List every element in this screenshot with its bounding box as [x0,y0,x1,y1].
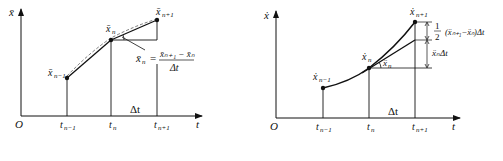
left-point-n [109,38,113,42]
left-tick-label-tn-1: t [60,119,63,130]
left-y-axis-label: x̄ [8,6,14,18]
left-point-n+1 [155,18,159,22]
right-angle-sub: n [388,62,392,70]
right-point-sub-n+1: n+1 [416,11,428,19]
right-tick-label-tn-1: t [316,121,319,132]
right-diagram: ẋ t O ẋ n−1 ẋ n ẋ n+1 ẍ n 1 2 (ẍₙ₊₁−ẍₙ)Δ… [263,6,485,134]
left-origin-label: O [15,118,23,130]
left-tick-sub-tn+1: n+1 [158,124,170,132]
left-point-label-n-1: x̄ [47,67,53,78]
left-tick-label-tn: t [109,119,112,130]
right-upper-frac-num: 1 [435,21,440,31]
left-x-axis-label: t [196,118,200,130]
right-point-sub-n-1: n−1 [319,76,331,84]
left-diagram: x̄ t O x̄ n−1 x̄ n x̄ n+1 x̄ n = x̄ₙ₊₁ −… [8,6,202,132]
right-point-n [367,66,371,70]
left-formula-equals: = [150,52,156,64]
left-tick-label-tn+1: t [154,119,157,130]
left-point-label-n+1: x̄ [155,6,161,17]
right-upper-frac-den: 2 [435,32,440,42]
left-formula-denominator: Δt [169,62,179,73]
right-lower-expr: ẍₙΔt [431,48,448,58]
left-pointer-line [122,37,145,50]
left-formula-lhs-sub: n [142,58,146,66]
right-tick-label-tn: t [367,121,370,132]
right-y-axis-label: ẋ [263,9,269,21]
diagram-canvas: x̄ t O x̄ n−1 x̄ n x̄ n+1 x̄ n = x̄ₙ₊₁ −… [0,0,503,161]
left-tick-sub-tn-1: n−1 [64,124,76,132]
right-tick-sub-tn-1: n−1 [320,126,332,134]
left-point-label-n: x̄ [105,23,111,34]
left-formula-numerator: x̄ₙ₊₁ − x̄ₙ [159,49,195,59]
right-origin-label: O [270,120,278,132]
right-point-n+1 [413,20,417,24]
left-point-sub-n-1: n−1 [54,72,66,80]
right-tick-sub-tn: n [371,126,375,134]
right-point-sub-n: n [368,56,372,64]
left-formula-lhs: x̄ [135,52,141,64]
right-upper-expr: (ẍₙ₊₁−ẍₙ)Δt [445,27,485,37]
left-point-sub-n: n [112,28,116,36]
left-delta-t-label: Δt [130,103,140,115]
left-segment-1 [67,40,111,78]
right-point-label-n+1: ẋ [409,6,415,17]
right-point-label-n: ẋ [361,51,367,62]
left-point-sub-n+1: n+1 [162,11,174,19]
right-delta-t-label: Δt [388,105,398,117]
right-point-n-1 [321,86,325,90]
right-tick-sub-tn+1: n+1 [416,126,428,134]
right-tick-label-tn+1: t [412,121,415,132]
right-x-axis-label: t [452,120,456,132]
right-angle-arc [379,62,381,68]
left-segment-2 [111,20,157,40]
left-tick-sub-tn: n [113,124,117,132]
right-point-label-n-1: ẋ [312,71,318,82]
right-angle-label: ẍ [382,58,387,68]
